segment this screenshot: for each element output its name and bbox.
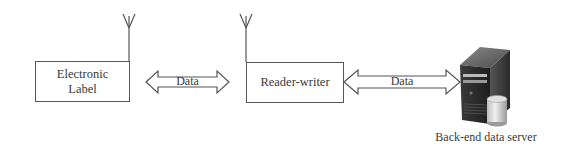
backend-server-label: Back-end data server [420,130,552,145]
electronic-label-line1: Electronic [57,67,108,82]
antenna-icon [123,14,135,61]
antenna-icon [240,14,252,62]
edge-label-data-2: Data [358,74,446,89]
electronic-label-box: Electronic Label [35,61,130,102]
reader-writer-label: Reader-writer [260,75,329,90]
reader-writer-box: Reader-writer [246,62,344,103]
edge-label-data-1: Data [158,74,217,89]
electronic-label-line2: Label [68,82,96,97]
database-icon [487,96,507,127]
